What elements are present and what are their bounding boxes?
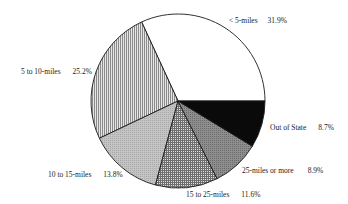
- slice-label-name: 15 to 25-miles: [186, 190, 229, 199]
- slice-label-name: 10 to 15-miles: [48, 170, 91, 179]
- label-10-to-15-miles: 10 to 15-miles13.8%: [48, 171, 123, 179]
- label-out-of-state: Out of State8.7%: [270, 124, 334, 132]
- slice-label-name: 5 to 10-miles: [21, 67, 61, 76]
- label-25-miles-or-more: 25-miles or more8.9%: [242, 167, 323, 175]
- slice-label-name: Out of State: [270, 123, 306, 132]
- slice-label-name: 25-miles or more: [242, 166, 294, 175]
- pie-slices: [91, 14, 265, 188]
- slice-label-name: < 5-miles: [229, 16, 258, 25]
- label-5-to-10-miles: 5 to 10-miles25.2%: [21, 68, 92, 76]
- slice-label-pct: 8.7%: [318, 123, 334, 132]
- label-15-to-25-miles: 15 to 25-miles11.6%: [186, 191, 260, 199]
- slice-label-pct: 13.8%: [103, 170, 122, 179]
- label-under-5-miles: < 5-miles31.9%: [229, 17, 287, 25]
- slice-label-pct: 31.9%: [268, 16, 287, 25]
- slice-label-pct: 25.2%: [73, 67, 92, 76]
- slice-label-pct: 11.6%: [241, 190, 260, 199]
- slice-label-pct: 8.9%: [308, 166, 324, 175]
